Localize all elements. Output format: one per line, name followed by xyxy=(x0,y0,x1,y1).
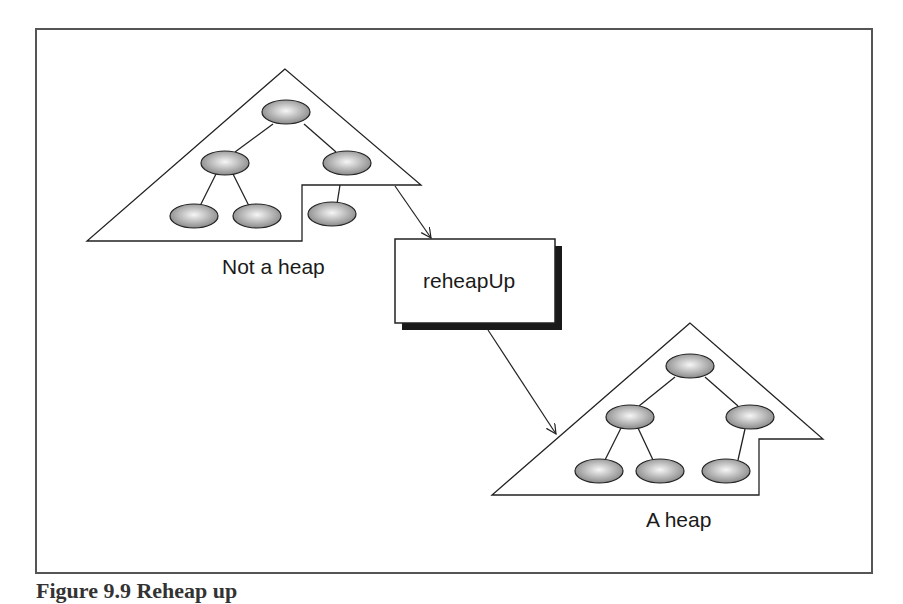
arrow-to-heap xyxy=(488,330,556,434)
not-a-heap-label: Not a heap xyxy=(222,255,325,279)
tree-node xyxy=(636,459,684,483)
tree-node xyxy=(702,459,750,483)
tree-node xyxy=(201,151,249,175)
not-a-heap-tree xyxy=(87,69,421,241)
tree-node xyxy=(606,405,654,429)
reheapup-label: reheapUp xyxy=(423,269,515,293)
tree-node xyxy=(308,202,356,226)
a-heap-label: A heap xyxy=(646,508,711,532)
tree-node xyxy=(323,151,371,175)
tree-node xyxy=(666,354,714,378)
heap-tree xyxy=(492,323,823,495)
tree-node xyxy=(575,459,623,483)
tree-node xyxy=(262,100,310,124)
tree-node xyxy=(233,204,281,228)
arrow-to-process xyxy=(395,186,431,238)
tree-node xyxy=(170,204,218,228)
figure-caption: Figure 9.9 Reheap up xyxy=(36,578,237,604)
tree-node xyxy=(726,405,774,429)
